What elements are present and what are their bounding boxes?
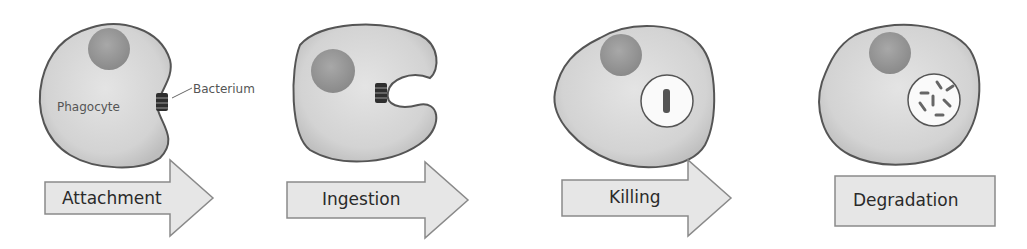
nucleus: [869, 32, 911, 74]
nucleus: [88, 28, 130, 70]
bacterium-icon: [663, 89, 670, 113]
phagocytosis-diagram: Phagocyte Bacterium Attachment Ingestion…: [0, 0, 1027, 249]
nucleus: [600, 34, 642, 76]
bacterium-pointer: [172, 88, 192, 98]
step-label-killing: Killing: [609, 187, 661, 207]
step-label-attachment: Attachment: [62, 188, 162, 208]
bacterium-label: Bacterium: [193, 82, 255, 96]
nucleus: [311, 49, 355, 93]
bacterium-icon: [375, 83, 387, 103]
bacterium-icon: [156, 93, 168, 111]
diagram-canvas: [0, 0, 1027, 249]
phagocyte-label: Phagocyte: [57, 100, 120, 114]
step-label-degradation: Degradation: [853, 190, 959, 210]
phagocyte-cell: [293, 25, 436, 162]
step-label-ingestion: Ingestion: [322, 189, 400, 209]
